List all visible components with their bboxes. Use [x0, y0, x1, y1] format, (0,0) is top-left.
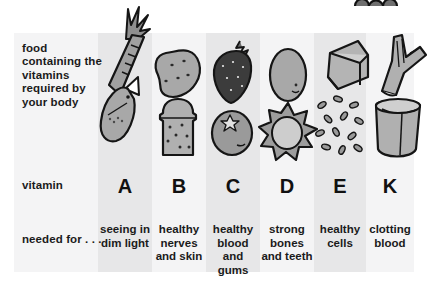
vitamin-table: food containing the vitamins required by…: [14, 33, 414, 272]
vitamin-letter-d: D: [260, 175, 314, 198]
needed-for-vitamin-b: healthy nerves and skin: [152, 223, 206, 264]
row-label-vitamin: vitamin: [22, 179, 108, 192]
needed-for-vitamin-e: healthy cells: [314, 223, 366, 250]
vitamin-letter-k: K: [366, 175, 414, 198]
page-margin-right: [414, 0, 436, 287]
vitamin-letter-b: B: [152, 175, 206, 198]
needed-for-vitamin-a: seeing in dim light: [98, 223, 152, 250]
row-label-needed-for: needed for . . .: [22, 233, 108, 246]
needed-for-vitamin-d: strong bones and teeth: [260, 223, 314, 264]
vitamin-letter-c: C: [206, 175, 260, 198]
page-margin-left: [0, 0, 14, 287]
needed-for-vitamin-c: healthy blood and gums: [206, 223, 260, 277]
row-label-foods: food containing the vitamins required by…: [22, 42, 108, 109]
vitamin-letter-e: E: [314, 175, 366, 198]
vitamin-letter-a: A: [98, 175, 152, 198]
needed-for-vitamin-k: clotting blood: [366, 223, 414, 250]
berry-cluster-icon: [350, 0, 410, 10]
